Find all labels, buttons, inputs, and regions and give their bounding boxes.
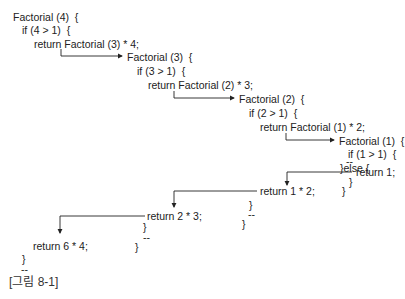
f1-condition: if (1 > 1) { (348, 148, 396, 160)
f3-close-fn: } (135, 241, 139, 253)
f3-condition: if (3 > 1) { (137, 65, 185, 77)
f2-close-fn: } (242, 218, 246, 230)
f3-header: Factorial (3) { (127, 51, 192, 63)
f2-condition: if (2 > 1) { (249, 107, 297, 119)
f1-return-base: return 1; (356, 166, 395, 178)
return-2-arrow (174, 191, 257, 207)
f2-return-value: return 1 * 2; (260, 185, 315, 197)
f3-return-call: return Factorial (2) * 3; (148, 79, 253, 91)
f4-return-call: return Factorial (3) * 4; (34, 38, 139, 50)
f1-close-fn: } (342, 185, 346, 197)
f4-return-value: return 6 * 4; (33, 240, 88, 252)
f3-ellipsis: -- (143, 231, 150, 243)
f3-return-value: return 2 * 3; (147, 210, 202, 222)
figure-caption: [그림 8-1] (9, 276, 58, 288)
call-f3-arrow (61, 49, 122, 56)
f1-header: Factorial (1) { (339, 135, 404, 147)
f1-close-else: } (349, 176, 353, 188)
call-f2-arrow (174, 91, 234, 98)
f4-ellipsis: -- (21, 263, 28, 275)
return-6-arrow (60, 216, 145, 233)
f2-ellipsis: -- (248, 208, 255, 220)
f4-condition: if (4 > 1) { (22, 24, 70, 36)
call-f1-arrow (286, 133, 334, 140)
f2-header: Factorial (2) { (239, 93, 304, 105)
f4-header: Factorial (4) { (13, 11, 78, 23)
f2-return-call: return Factorial (1) * 2; (260, 121, 365, 133)
